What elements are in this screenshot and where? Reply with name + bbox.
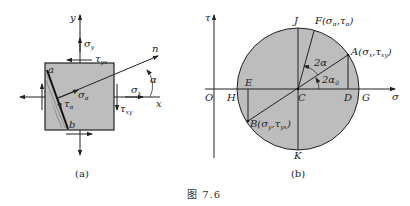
sigma-x-label: σx — [131, 84, 142, 96]
panel-b-label: (b) — [291, 168, 305, 179]
point-j-label: J — [292, 15, 299, 26]
point-h-label: H — [226, 92, 236, 103]
point-b — [247, 120, 249, 122]
corner-b-label: b — [69, 119, 75, 130]
point-a-label: A(σx,τxy) — [350, 46, 392, 59]
y-axis-label: y — [69, 12, 76, 23]
point-f-label: F(σα,τα) — [314, 15, 354, 27]
x-axis-label: x — [156, 98, 162, 109]
point-c — [297, 88, 299, 90]
n-label: n — [152, 43, 158, 54]
panel-a: y σy τyx n α σx x τxy a b σα τα (a) — [20, 12, 162, 179]
point-a — [347, 54, 349, 56]
stress-diagram: y σy τyx n α σx x τxy a b σα τα (a) — [0, 0, 410, 206]
tau-xy-label: τxy — [120, 103, 133, 116]
point-g-label: G — [362, 92, 370, 103]
origin-label: O — [205, 92, 213, 103]
tau-axis-label: τ — [205, 12, 211, 23]
corner-a-label: a — [48, 64, 54, 75]
point-c-label: C — [298, 92, 306, 103]
point-d-label: D — [343, 92, 352, 103]
point-k-label: K — [293, 150, 302, 161]
figure-caption: 图 7.6 — [187, 189, 221, 200]
sigma-axis-label: σ — [392, 91, 400, 102]
panel-a-label: (a) — [75, 168, 89, 179]
sigma-y-label: σy — [84, 38, 95, 51]
alpha-label: α — [150, 74, 157, 85]
angle-2alpha-label: 2α — [313, 57, 327, 68]
panel-b: τ σ O H E C D G J K F(σα,τα) A(σx,τxy) B… — [205, 12, 400, 179]
point-e-label: E — [244, 77, 253, 88]
